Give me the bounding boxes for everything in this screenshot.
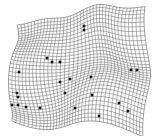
data-point-marker	[16, 92, 19, 95]
data-point-marker	[59, 61, 62, 64]
data-point-marker	[18, 71, 21, 74]
data-point-marker	[127, 110, 130, 113]
mesh-canvas	[0, 0, 162, 136]
data-point-marker	[83, 25, 86, 28]
data-point-marker	[59, 81, 62, 84]
data-point-marker	[130, 69, 133, 72]
data-point-marker	[64, 92, 67, 95]
wireframe-surface-figure	[0, 0, 162, 136]
data-point-marker	[25, 106, 28, 109]
data-point-marker	[69, 78, 72, 81]
data-point-marker	[83, 29, 86, 32]
data-point-marker	[98, 115, 101, 118]
data-point-marker	[11, 104, 14, 107]
data-point-marker	[46, 57, 49, 60]
data-point-marker	[51, 61, 54, 64]
data-point-marker	[74, 107, 77, 110]
data-point-marker	[17, 96, 20, 99]
data-point-marker	[118, 102, 121, 105]
data-point-marker	[91, 94, 94, 97]
data-point-marker	[17, 104, 20, 107]
data-point-marker	[136, 69, 139, 72]
data-point-marker	[90, 76, 93, 79]
data-point-marker	[39, 107, 42, 110]
